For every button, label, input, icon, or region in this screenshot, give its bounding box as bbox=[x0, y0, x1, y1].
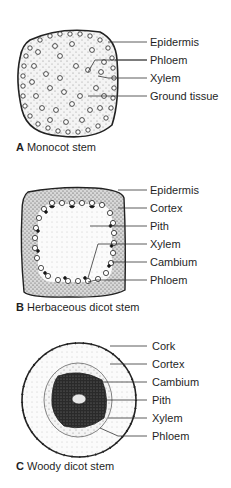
caption-letter: A bbox=[16, 141, 24, 153]
label-xylem: Xylem bbox=[150, 238, 181, 250]
label-cambium: Cambium bbox=[152, 376, 199, 388]
label-pith: Pith bbox=[152, 394, 171, 406]
woody-dicot-stem-drawing bbox=[22, 343, 147, 457]
caption-herbaceous-dicot: BHerbaceous dicot stem bbox=[16, 301, 139, 313]
label-epidermis: Epidermis bbox=[150, 184, 199, 196]
label-cambium: Cambium bbox=[150, 256, 197, 268]
caption-woody-dicot: CWoody dicot stem bbox=[16, 460, 114, 472]
label-pith: Pith bbox=[150, 220, 169, 232]
caption-text: Woody dicot stem bbox=[27, 460, 114, 472]
label-cortex: Cortex bbox=[150, 202, 182, 214]
caption-letter: C bbox=[16, 460, 24, 472]
caption-text: Herbaceous dicot stem bbox=[27, 301, 140, 313]
label-phloem: Phloem bbox=[152, 430, 189, 442]
caption-letter: B bbox=[16, 301, 24, 313]
label-cork: Cork bbox=[152, 340, 175, 352]
caption-monocot: AMonocot stem bbox=[16, 141, 96, 153]
label-xylem: Xylem bbox=[150, 72, 181, 84]
label-xylem: Xylem bbox=[152, 412, 183, 424]
label-phloem: Phloem bbox=[150, 274, 187, 286]
stem-diagrams-drawing bbox=[0, 0, 231, 488]
label-cortex: Cortex bbox=[152, 358, 184, 370]
monocot-stem-drawing bbox=[18, 30, 147, 137]
caption-text: Monocot stem bbox=[27, 141, 96, 153]
label-phloem: Phloem bbox=[150, 54, 187, 66]
label-epidermis: Epidermis bbox=[150, 36, 199, 48]
herbaceous-dicot-stem-drawing bbox=[21, 188, 147, 298]
label-ground-tissue: Ground tissue bbox=[150, 90, 218, 102]
